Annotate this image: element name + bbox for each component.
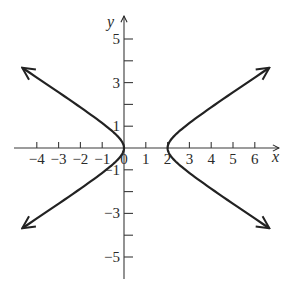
y-tick-label: 5 — [113, 31, 121, 47]
y-tick-label: −5 — [104, 249, 120, 265]
y-tick-label: −3 — [104, 205, 120, 221]
x-tick-label: 6 — [251, 151, 259, 167]
x-tick-label: −4 — [29, 151, 45, 167]
axes: x y — [14, 13, 279, 279]
y-tick-label: 3 — [113, 75, 121, 91]
x-tick-label: 3 — [186, 151, 194, 167]
x-ticks: −4−3−2−10123456 — [29, 142, 259, 167]
hyperbola-graph: x y −4−3−2−10123456 531−1−3−5 — [0, 0, 287, 282]
x-axis-label: x — [271, 148, 279, 165]
x-tick-label: −2 — [72, 151, 88, 167]
x-tick-label: 1 — [142, 151, 150, 167]
x-tick-label: 5 — [229, 151, 237, 167]
x-tick-label: 4 — [207, 151, 215, 167]
x-tick-label: −3 — [51, 151, 67, 167]
y-axis-label: y — [105, 13, 115, 31]
